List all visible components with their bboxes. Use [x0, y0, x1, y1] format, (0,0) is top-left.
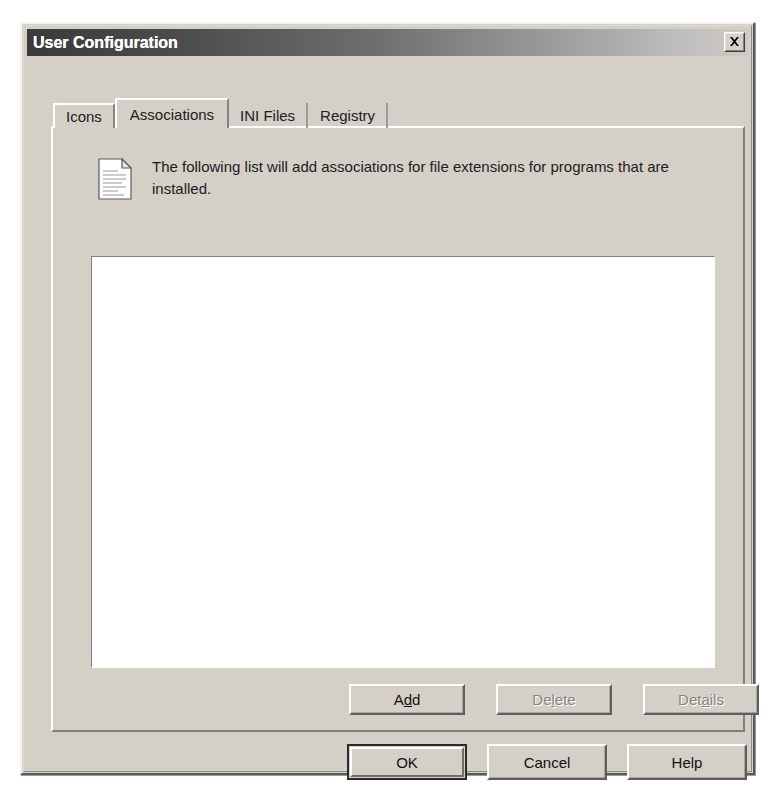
- details-button-label: Details: [678, 691, 724, 708]
- add-button-label: Add: [394, 691, 421, 708]
- delete-button-label: Delete: [532, 691, 575, 708]
- close-x-icon: [729, 37, 740, 47]
- associations-listbox[interactable]: [91, 256, 715, 668]
- info-row: The following list will add associations…: [98, 156, 728, 200]
- document-page-icon: [98, 158, 132, 200]
- cancel-button[interactable]: Cancel: [487, 744, 607, 780]
- tab-icons-label: Icons: [66, 108, 102, 125]
- window-title: User Configuration: [27, 34, 178, 52]
- help-button-label: Help: [672, 754, 703, 771]
- add-button[interactable]: Add: [349, 684, 465, 715]
- tab-ini-files-label: INI Files: [240, 107, 295, 124]
- tab-page-associations: The following list will add associations…: [51, 126, 745, 732]
- tab-registry[interactable]: Registry: [309, 103, 388, 128]
- dialog-action-buttons: OK Cancel Help: [347, 744, 747, 780]
- cancel-button-label: Cancel: [524, 754, 571, 771]
- tab-strip: Icons Associations INI Files Registry: [53, 98, 389, 128]
- help-button[interactable]: Help: [627, 744, 747, 780]
- user-configuration-dialog: User Configuration Icons Associations IN…: [20, 22, 755, 775]
- close-button-face: [725, 33, 744, 51]
- delete-button[interactable]: Delete: [496, 684, 612, 715]
- description-text: The following list will add associations…: [152, 156, 728, 200]
- ok-button-label: OK: [396, 754, 418, 771]
- associations-listbox-items: [92, 257, 714, 261]
- ok-button[interactable]: OK: [347, 744, 467, 780]
- tab-associations[interactable]: Associations: [115, 98, 229, 128]
- details-button[interactable]: Details: [643, 684, 759, 715]
- title-bar: User Configuration: [27, 29, 748, 56]
- tab-registry-label: Registry: [320, 107, 375, 124]
- tab-ini-files[interactable]: INI Files: [229, 103, 308, 128]
- close-button[interactable]: [724, 32, 745, 52]
- tab-action-buttons: Add Delete Details: [349, 684, 759, 715]
- ok-button-face: OK: [350, 747, 464, 777]
- tab-icons[interactable]: Icons: [53, 103, 115, 128]
- tab-associations-label: Associations: [130, 106, 214, 123]
